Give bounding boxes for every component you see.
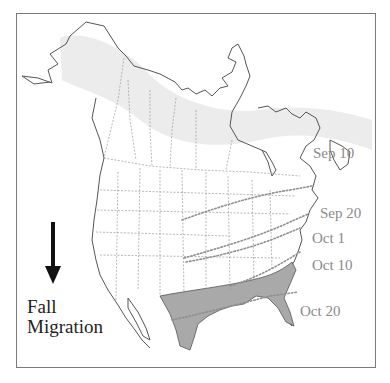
arrow-down-icon: [45, 222, 61, 284]
title-line-2: Migration: [27, 317, 103, 337]
isochrone-label-oct20: Oct 20: [300, 304, 340, 319]
isochrone-sep10: [182, 186, 312, 220]
breeding-range-band: [60, 36, 372, 150]
baja-outline: [128, 298, 150, 340]
isochrone-label-sep20: Sep 20: [320, 206, 361, 221]
isochrone-label-oct1: Oct 1: [312, 231, 345, 246]
wintering-range: [160, 262, 296, 350]
title-line-1: Fall: [27, 297, 103, 317]
east-coast-outline: [188, 190, 318, 348]
isochrone-label-oct10: Oct 10: [312, 258, 352, 273]
map-title: Fall Migration: [27, 297, 103, 337]
isochrone-sep20: [184, 214, 308, 258]
isochrone-label-sep10: Sep 10: [313, 146, 354, 161]
